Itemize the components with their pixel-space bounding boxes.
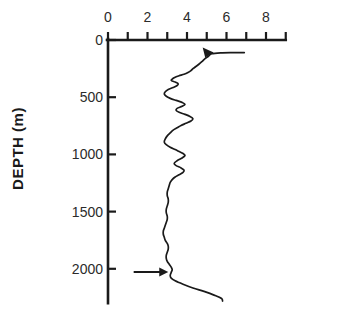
depth-profile-figure: DEPTH (m) 024680500100015002000 bbox=[0, 0, 350, 313]
profile-line bbox=[163, 53, 244, 301]
y-tick-label: 1500 bbox=[72, 204, 103, 220]
axes-group bbox=[107, 32, 286, 303]
lower-arrow-head bbox=[159, 267, 168, 276]
x-tick-label: 4 bbox=[183, 9, 191, 25]
data-series-group bbox=[163, 53, 244, 301]
x-tick-label: 0 bbox=[104, 9, 112, 25]
x-tick-label: 8 bbox=[262, 9, 270, 25]
y-tick-label: 0 bbox=[95, 32, 103, 48]
x-tick-label: 2 bbox=[144, 9, 152, 25]
y-axis-title: DEPTH (m) bbox=[9, 94, 26, 204]
y-tick-label: 500 bbox=[80, 89, 103, 105]
x-tick-label: 6 bbox=[223, 9, 231, 25]
y-tick-label: 1000 bbox=[72, 146, 103, 162]
plot-canvas bbox=[0, 0, 350, 313]
y-tick-label: 2000 bbox=[72, 261, 103, 277]
